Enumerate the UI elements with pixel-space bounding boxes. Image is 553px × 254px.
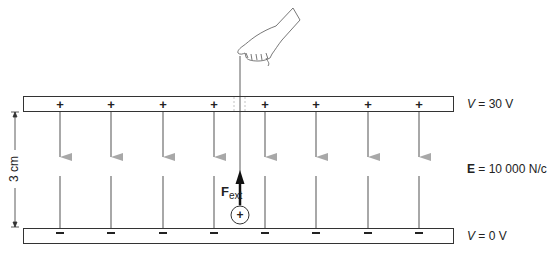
charge-sign: + [236, 208, 243, 222]
negative-sign [364, 232, 372, 234]
bottom-potential-label: V = 0 V [467, 229, 507, 243]
positive-sign: + [159, 97, 167, 112]
negative-sign [56, 232, 64, 234]
hand-icon [238, 8, 300, 66]
parallel-plate-diagram: ++++++++ 3 cm Fext + V = 30 V E = 10 000… [0, 0, 553, 254]
negative-sign [159, 232, 167, 234]
separation-label: 3 cm [7, 156, 21, 182]
positive-sign: + [210, 97, 218, 112]
top-potential-label: V = 30 V [467, 97, 513, 111]
negative-sign [312, 232, 320, 234]
negative-sign [107, 232, 115, 234]
negative-sign [261, 232, 269, 234]
positive-sign: + [261, 97, 269, 112]
bottom-plate [24, 229, 454, 244]
positive-sign: + [364, 97, 372, 112]
positive-sign: + [312, 97, 320, 112]
top-plate [24, 97, 454, 112]
positive-sign: + [415, 97, 423, 112]
positive-sign: + [107, 97, 115, 112]
negative-sign [415, 232, 423, 234]
positive-sign: + [56, 97, 64, 112]
field-strength-label: E = 10 000 N/c [467, 162, 547, 176]
negative-sign [210, 232, 218, 234]
